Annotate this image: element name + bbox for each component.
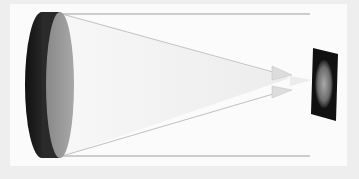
lens-icon bbox=[25, 12, 74, 158]
converging-beam bbox=[62, 14, 290, 156]
optics-diagram bbox=[0, 0, 359, 179]
image-plate-icon bbox=[311, 48, 338, 121]
diagram-frame bbox=[0, 0, 359, 179]
